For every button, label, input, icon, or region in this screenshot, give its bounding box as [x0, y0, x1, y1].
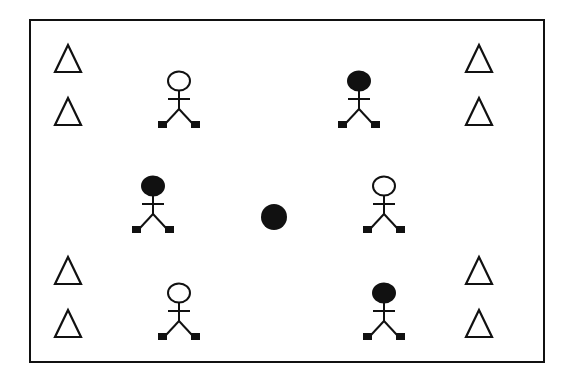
player-open-icon: [363, 177, 405, 234]
cone-triangle-icon: [466, 45, 492, 72]
player-filled-icon: [338, 72, 380, 129]
player-open-icon: [158, 284, 200, 341]
cone-triangle-icon: [466, 310, 492, 337]
cone-triangle-icon: [466, 98, 492, 125]
player-filled-icon: [132, 177, 174, 234]
ball-icon: [261, 204, 287, 230]
player-filled-icon: [363, 284, 405, 341]
cone-triangle-icon: [55, 257, 81, 284]
drill-diagram: [0, 0, 570, 379]
player-open-icon: [158, 72, 200, 129]
cone-triangle-icon: [55, 45, 81, 72]
cone-triangle-icon: [466, 257, 492, 284]
cones-group: [55, 45, 492, 337]
cone-triangle-icon: [55, 98, 81, 125]
cone-triangle-icon: [55, 310, 81, 337]
